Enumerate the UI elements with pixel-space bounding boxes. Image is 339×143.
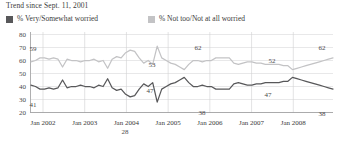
series-line-very-somewhat-worried — [31, 77, 333, 102]
y-axis-tick-label: 30 — [19, 96, 27, 104]
legend-swatch-icon-dark — [6, 16, 13, 23]
data-point-label: 59 — [30, 45, 38, 53]
series-line-not-too-not-at-all-worried — [31, 46, 333, 69]
legend-item-not-too-not-at-all-worried: % Not too/Not at all worried — [148, 15, 245, 23]
data-point-label: 62 — [195, 44, 203, 52]
legend-label-very-somewhat-worried: % Very/Somewhat worried — [17, 15, 98, 23]
data-point-label: 38 — [319, 110, 327, 118]
plot-area: 20304050607080 Jan 2002Jan 2003Jan 2004J… — [0, 30, 339, 143]
data-point-label: 47 — [147, 87, 155, 95]
legend-item-very-somewhat-worried: % Very/Somewhat worried — [6, 15, 98, 23]
x-axis-tick-label: Jan 2006 — [197, 119, 223, 127]
y-gridlines — [31, 35, 333, 113]
x-axis-tick-label: Jan 2005 — [156, 119, 182, 127]
y-axis-tick-label: 80 — [19, 31, 27, 39]
x-axis-tick-label: Jan 2007 — [239, 119, 265, 127]
data-point-label: 52 — [269, 57, 277, 65]
x-axis-tick-label: Jan 2002 — [30, 119, 56, 127]
x-axis-tick-label: Jan 2008 — [281, 119, 307, 127]
y-axis-tick-labels: 20304050607080 — [19, 31, 27, 117]
data-point-label: 38 — [199, 109, 207, 117]
x-axis-tick-label: Jan 2004 — [114, 119, 140, 127]
x-axis-tick-labels: Jan 2002Jan 2003Jan 2004Jan 2005Jan 2006… — [30, 119, 306, 127]
data-point-label: 53 — [149, 61, 157, 69]
data-point-label: 28 — [122, 128, 130, 136]
data-point-label: 47 — [265, 91, 273, 99]
y-axis-tick-label: 20 — [19, 109, 27, 117]
y-axis-tick-label: 50 — [19, 70, 27, 78]
data-point-label: 41 — [30, 101, 38, 109]
legend-label-not-too-not-at-all-worried: % Not too/Not at all worried — [159, 15, 245, 23]
y-axis-tick-label: 70 — [19, 44, 27, 52]
y-axis-tick-label: 40 — [19, 83, 27, 91]
chart-container: Trend since Sept. 11, 2001 % Very/Somewh… — [0, 0, 339, 143]
x-axis-tick-label: Jan 2003 — [72, 119, 98, 127]
y-axis-tick-label: 60 — [19, 57, 27, 65]
chart-svg: 20304050607080 Jan 2002Jan 2003Jan 2004J… — [0, 30, 339, 143]
chart-title: Trend since Sept. 11, 2001 — [6, 1, 88, 10]
legend-swatch-icon-light — [148, 16, 155, 23]
data-point-label: 62 — [319, 44, 327, 52]
x-gridlines — [43, 32, 293, 113]
